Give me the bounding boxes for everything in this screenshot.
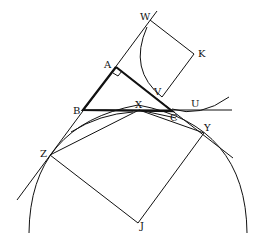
- label-w: W: [140, 11, 151, 22]
- label-y: Y: [203, 122, 211, 133]
- segment-j-y: [138, 133, 204, 223]
- label-z: Z: [40, 148, 47, 159]
- label-x: X: [135, 99, 143, 110]
- label-k: K: [198, 48, 206, 59]
- label-u: U: [191, 98, 199, 109]
- segment-w-k: [150, 20, 194, 54]
- arc-c-u: [172, 97, 229, 112]
- segment-k-v: [162, 54, 194, 97]
- segment-z-j: [50, 155, 138, 223]
- geometry-diagram: W K A V B X U C Y Z J: [0, 0, 261, 248]
- label-c: C: [170, 112, 178, 123]
- large-circle-arc: [29, 105, 247, 233]
- segment-x-z: [50, 110, 139, 155]
- label-b: B: [73, 105, 80, 116]
- label-v: V: [153, 86, 162, 97]
- label-j: J: [139, 220, 144, 231]
- label-a: A: [103, 59, 112, 70]
